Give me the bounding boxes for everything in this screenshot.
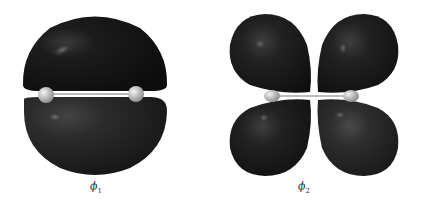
top-lobe: [23, 17, 167, 92]
orbital-figure-phi2: ϕ2: [210, 0, 421, 211]
bottom-right-lobe: [318, 99, 399, 176]
orbital-figure-phi1: ϕ1: [0, 0, 210, 211]
phi2-label: ϕ2: [298, 180, 310, 195]
bottom-lobe: [24, 97, 167, 175]
phi1-label: ϕ1: [90, 180, 102, 195]
phi1-orbital-graphic: [0, 0, 210, 211]
top-right-lobe: [318, 14, 399, 93]
top-left-lobe: [230, 14, 311, 93]
bottom-left-lobe: [230, 99, 311, 176]
phi2-orbital-graphic: [210, 0, 421, 211]
